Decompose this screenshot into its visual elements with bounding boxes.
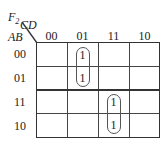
grid-line (37, 66, 159, 67)
col-label: 01 (67, 30, 98, 42)
row-label: 00 (14, 48, 26, 60)
group-loop (76, 47, 90, 87)
col-label: 11 (98, 30, 129, 42)
row-label: 10 (14, 120, 26, 132)
row-label: 11 (14, 96, 26, 108)
col-label: 10 (129, 30, 160, 42)
col-label: 00 (36, 30, 67, 42)
row-label: 01 (14, 72, 26, 84)
group-loop (107, 94, 121, 134)
corner-diagonal (0, 0, 40, 45)
kmap-grid: 1 1 1 1 (36, 42, 160, 138)
